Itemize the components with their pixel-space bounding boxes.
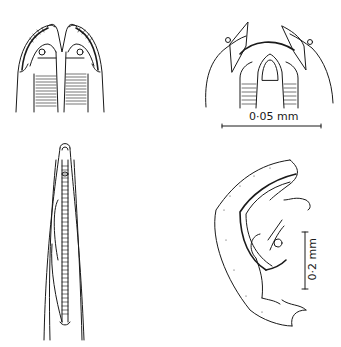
scale-label-0-2mm: 0·2 mm [306, 241, 319, 281]
figure-drawings [0, 0, 341, 347]
panel-b-cephalic-end [206, 22, 333, 108]
scale-label-0-05mm: 0·05 mm [249, 110, 298, 123]
panel-a-cephalic-end [16, 24, 104, 112]
panel-c-oesophagus [44, 144, 84, 341]
panel-d-male-tail [215, 160, 310, 326]
scale-bar-0-05mm [222, 124, 321, 128]
